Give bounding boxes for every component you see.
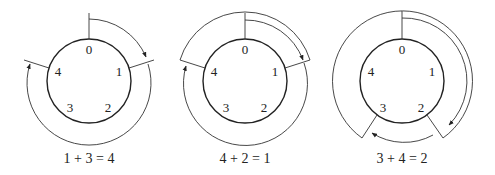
- label-1: 1: [272, 64, 279, 79]
- modular-addition-figure: 0 1 2 3 4 1 + 3 = 4 0 1 2 3 4 4 + 2 = 1: [0, 0, 495, 175]
- label-2: 2: [261, 100, 268, 115]
- label-4: 4: [368, 64, 375, 79]
- arrow-step-2-to-3: [372, 133, 433, 142]
- outer-boundary-arc: [333, 11, 473, 138]
- arrow-step-1-to-4: [183, 63, 307, 145]
- label-3: 3: [223, 100, 230, 115]
- label-3: 3: [67, 100, 74, 115]
- label-0: 0: [399, 42, 406, 57]
- arrow-step-0-to-1: [89, 19, 146, 57]
- diagram-1: 0 1 2 3 4 1 + 3 = 4: [24, 13, 154, 166]
- tick-2: [427, 115, 443, 138]
- diagram-2: 0 1 2 3 4 4 + 2 = 1: [180, 12, 310, 166]
- label-4: 4: [55, 64, 62, 79]
- label-1: 1: [429, 64, 436, 79]
- caption-3: 3 + 4 = 2: [377, 151, 428, 166]
- label-0: 0: [242, 42, 249, 57]
- label-2: 2: [105, 100, 112, 115]
- tick-1: [129, 60, 154, 68]
- label-3: 3: [380, 100, 387, 115]
- tick-4: [24, 60, 49, 68]
- label-1: 1: [116, 64, 123, 79]
- tick-1: [285, 60, 310, 68]
- label-2: 2: [418, 100, 425, 115]
- tick-4: [180, 60, 205, 68]
- arrow-step-1-to-4: [27, 64, 151, 145]
- diagram-3: 0 1 2 3 4 3 + 4 = 2: [333, 11, 473, 166]
- caption-1: 1 + 3 = 4: [64, 151, 115, 166]
- caption-2: 4 + 2 = 1: [220, 151, 271, 166]
- label-4: 4: [211, 64, 218, 79]
- label-0: 0: [86, 42, 93, 57]
